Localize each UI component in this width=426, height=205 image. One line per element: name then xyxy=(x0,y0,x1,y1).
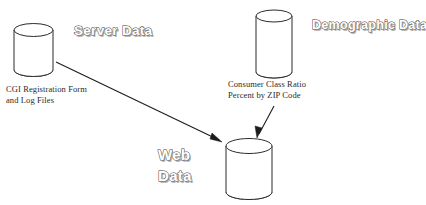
web-data-heading: Web Data xyxy=(158,144,192,186)
cylinder-server-data[interactable] xyxy=(14,24,53,77)
server-data-heading: Server Data xyxy=(74,23,152,38)
cylinder-top-server xyxy=(14,24,53,37)
cylinder-top-demographic xyxy=(256,10,292,22)
demographic-data-caption: Consumer Class Ratio Percent by ZIP Code xyxy=(228,79,306,100)
arrow-demographic-to-web xyxy=(255,106,274,138)
demographic-data-heading: Demographic Data xyxy=(312,18,426,32)
cylinder-body-demographic xyxy=(256,16,292,78)
cylinder-bottom-demographic xyxy=(256,72,292,78)
diagram-canvas: Server Data CGI Registration Form and Lo… xyxy=(0,0,426,205)
cylinder-body-web xyxy=(226,146,272,200)
cylinder-bottom-server xyxy=(14,70,53,77)
cylinder-top-web xyxy=(226,139,272,154)
cylinder-bottom-web xyxy=(226,192,272,200)
cylinder-demographic-data[interactable] xyxy=(256,10,292,78)
server-data-caption: CGI Registration Form and Log Files xyxy=(6,84,87,105)
cylinder-web-data[interactable] xyxy=(226,139,272,200)
